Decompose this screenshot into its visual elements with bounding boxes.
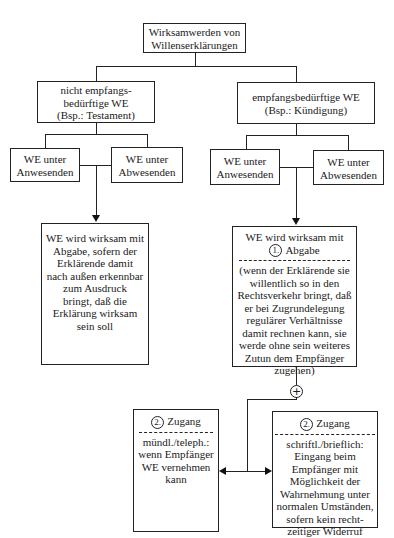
connector	[147, 134, 148, 147]
left-absent-box: WE unter Abwesenden	[111, 147, 183, 183]
root-box: Wirksamwerden von Willenserklärungen	[143, 23, 246, 53]
dashed-divider	[239, 260, 350, 261]
right-absent-box: WE unter Abwesenden	[313, 150, 384, 185]
connector	[96, 123, 97, 134]
zugang-written-text: schriftl./brieflich: Eingang beim Empfän…	[273, 438, 377, 538]
connector	[246, 135, 247, 149]
connector	[96, 66, 97, 81]
zugang-oral-box: 2.Zugang mündl./teleph.: wenn Empfänger …	[133, 409, 219, 532]
step-2-label: Zugang	[316, 417, 350, 429]
result-detail: (wenn der Erklärende sie willentlich so …	[233, 264, 356, 377]
step-2-label: Zugang	[167, 415, 201, 427]
connector	[246, 135, 349, 136]
left-result-box: WE wird wirksam mit Abgabe, sofern der E…	[41, 223, 149, 365]
zugang-oral-text: mündl./teleph.: wenn Empfänger WE verneh…	[134, 436, 218, 486]
connector	[195, 53, 196, 66]
right-present-box: WE unter Anwesenden	[210, 149, 280, 185]
connector	[296, 397, 297, 400]
arrow-left-icon	[219, 467, 226, 475]
receipt-required-box: empfangsbedürftige WE (Bsp.: Kündigung)	[237, 82, 375, 124]
connector	[348, 135, 349, 150]
arrow-down-icon	[92, 215, 100, 222]
dashed-divider	[275, 434, 375, 435]
connector	[45, 134, 148, 135]
zugang-written-box: 2.Zugang schriftl./brieflich: Eingang be…	[272, 411, 378, 528]
result-heading: WE wird wirksam mit	[233, 231, 356, 244]
connector	[296, 167, 297, 219]
arrow-right-icon	[265, 467, 272, 475]
connector	[96, 66, 296, 67]
non-receipt-required-box: nicht empfangs- bedürftige WE (Bsp.: Tes…	[37, 81, 155, 123]
connector	[296, 124, 297, 135]
connector	[247, 399, 248, 471]
step-2-number: 2.	[300, 418, 313, 431]
connector	[296, 66, 297, 82]
right-result-box: WE wird wirksam mit 1.Abgabe (wenn der E…	[232, 226, 357, 367]
left-present-box: WE unter Anwesenden	[10, 148, 80, 182]
connector	[224, 471, 266, 472]
connector	[96, 165, 97, 216]
dashed-divider	[139, 432, 213, 433]
connector	[296, 367, 297, 385]
step-1-row: 1.Abgabe	[233, 244, 356, 258]
step-1-number: 1.	[269, 244, 282, 257]
connector	[247, 399, 296, 400]
step-2-row: 2.Zugang	[273, 417, 377, 431]
step-1-label: Abgabe	[285, 244, 319, 256]
step-2-number: 2.	[151, 416, 164, 429]
arrow-down-icon	[292, 218, 300, 225]
connector	[45, 134, 46, 148]
step-2-row: 2.Zugang	[134, 415, 218, 429]
